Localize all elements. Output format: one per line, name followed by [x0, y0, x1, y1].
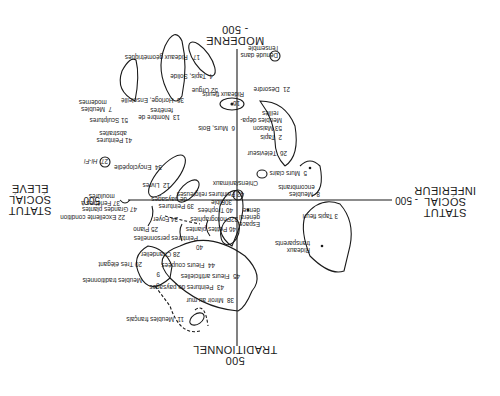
item-meubles-depareilles: Meubles dépa- reillés [240, 110, 282, 124]
item-52: 52 Orgue [192, 87, 218, 94]
item-28: 28 Chandelier [141, 251, 180, 258]
item-16: 16 [233, 100, 240, 107]
axis-right-line-1: STATUT [0, 205, 60, 216]
axis-left-line-1: STATUT [410, 207, 480, 218]
item-13: 13 Nombre de fenêtres [138, 107, 180, 121]
item-43: 43 Peintures de paysages [149, 284, 224, 291]
item-6: 6 Murs, Bois [198, 125, 235, 132]
axis-right-line-2: SOCIAL [0, 194, 60, 205]
item-8: 8 Meubles encombrants [278, 184, 320, 198]
item-12: 12 Livres [143, 182, 170, 189]
item-27: 27 Hi-Fi [84, 158, 108, 165]
item-3: 3 Tapis fleuri [303, 213, 338, 220]
axis-right-line-3: ÉLEVÉ [0, 183, 60, 194]
item-32: 32Photographies [190, 216, 238, 223]
item-7: 7 Meubles modernes [79, 99, 112, 113]
axis-left-line-3: INFÉRIEUR [410, 185, 480, 196]
item-53: 53 Maison [253, 125, 282, 132]
item-38: 38 Miroir au mur [186, 297, 234, 304]
item-51: 51 Sculptures [89, 117, 128, 124]
item-39: 39 Peintures de paysages [151, 196, 194, 210]
item-41: 41 Peintures abstraites [97, 130, 132, 144]
item-42: 42 Peintures religieuses [177, 191, 244, 198]
axis-left-line-2: SOCIAL [410, 196, 480, 207]
item-22: 22 Excellente condition [60, 214, 125, 221]
item-chiens-animaux: Chiens/animaux [213, 180, 258, 187]
item-9-label: Meubles traditionnels [82, 277, 142, 284]
item-rideaux-transparents: Rideauxtransparents [275, 240, 310, 254]
axis-label-top: TRADITIONNEL [180, 344, 290, 355]
axis-tick-top: 500 [180, 355, 290, 366]
axis-tick-left: - 500 [395, 195, 418, 206]
item-peintures-personnelles: Peintures personnelles [134, 235, 198, 242]
item-47: 47 Grandes plantes [82, 206, 137, 213]
item-40a: 40 [196, 244, 203, 251]
item-25: 25 Piano [133, 226, 158, 233]
item-2: 2 Tapis [260, 134, 282, 141]
item-30: 30Bible [211, 199, 232, 206]
item-34: 34 Encyclopédie [114, 164, 162, 171]
item-11: 11 Meubles français [126, 316, 184, 323]
item-9: 9 [156, 271, 160, 278]
axis-tick-bottom: - 500 [185, 24, 285, 35]
axis-title-traditionnel: 500 TRADITIONNEL [180, 344, 290, 366]
item-18: Dénudé dansl'ensemble [241, 45, 278, 59]
item-20: 20 Très élégant [98, 261, 142, 268]
item-4: 4 Tapis, Solide [170, 73, 213, 80]
item-26: 26 Téléviseur [247, 150, 287, 157]
item-5: 5 Murs clairs [270, 170, 307, 177]
item-17: 17 Rideaux géométriques [125, 54, 200, 61]
item-21: 21 Désordre [254, 86, 290, 93]
item-36: 36 Horloge, Ensoleillé [121, 97, 184, 104]
item-44: 44 Fleurs coupées [161, 262, 215, 269]
diagram-stage: 500 TRADITIONNEL MODERNE - 500 STATUT SO… [0, 0, 500, 396]
item-espace-general: Espacegénéraldense [239, 207, 260, 228]
axis-title-statut-inferieur: STATUT SOCIAL INFÉRIEUR [410, 185, 480, 218]
item-45: 45 Fleurs artificielles [181, 273, 240, 280]
item-46: 46 Petites plantes [186, 226, 236, 233]
axis-title-statut-eleve: STATUT SOCIAL ÉLEVÉ [0, 183, 60, 216]
item-37: 37 Fenêtres à moulures [81, 193, 120, 207]
axis-title-moderne: MODERNE - 500 [185, 24, 285, 46]
item-24: 24 Foyer [153, 216, 178, 223]
item-40: 40 Trophées [198, 207, 233, 214]
